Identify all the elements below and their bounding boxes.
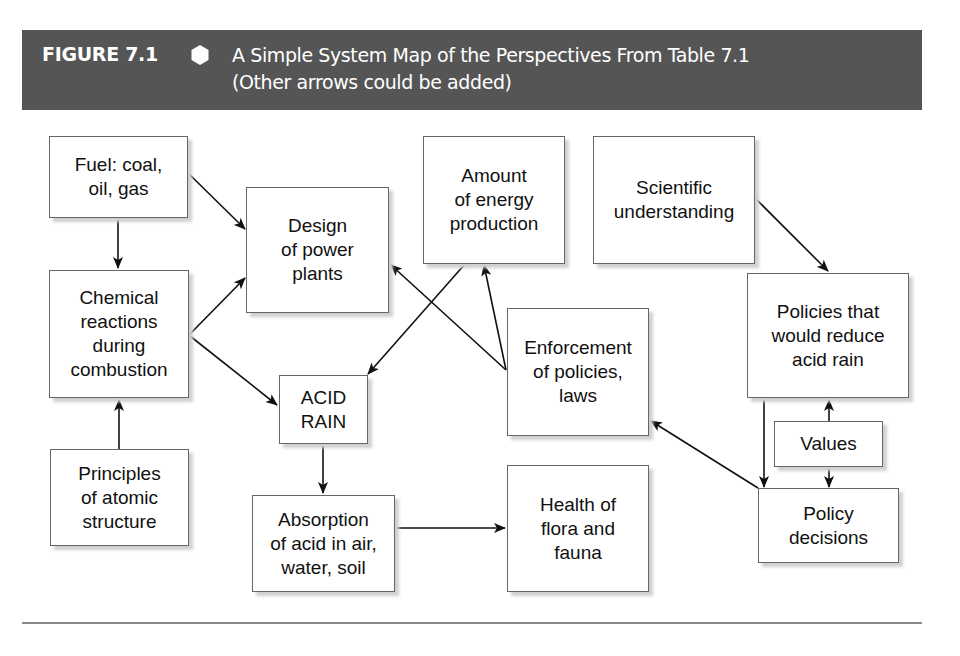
arrow-chemical-to-acid-rain (190, 336, 277, 405)
arrow-scientific-to-policies (755, 198, 828, 271)
node-chemical-reactions: Chemical reactions during combustion (49, 270, 189, 398)
node-acid-rain: ACID RAIN (279, 375, 368, 444)
node-policies-reduce-acid-rain: Policies that would reduce acid rain (747, 273, 909, 398)
node-scientific-understanding: Scientific understanding (593, 136, 755, 264)
node-design-of-power-plants: Design of power plants (246, 187, 389, 313)
arrow-decisions-to-enforcement (651, 421, 758, 488)
node-amount-of-energy-production: Amount of energy production (423, 136, 565, 264)
node-values: Values (774, 421, 883, 467)
node-policy-decisions: Policy decisions (758, 488, 899, 563)
bottom-rule (22, 622, 922, 624)
arrow-chemical-design (190, 278, 245, 334)
node-enforcement: Enforcement of policies, laws (507, 308, 649, 436)
arrow-enforcement-to-amount (484, 265, 506, 370)
node-absorption: Absorption of acid in air, water, soil (252, 495, 395, 592)
node-principles-atomic-structure: Principles of atomic structure (50, 449, 189, 546)
arrow-fuel-to-design (187, 172, 245, 229)
node-health-flora-fauna: Health of flora and fauna (507, 465, 649, 592)
node-fuel: Fuel: coal, oil, gas (49, 136, 188, 218)
arrow-enforcement-to-design (391, 265, 506, 370)
